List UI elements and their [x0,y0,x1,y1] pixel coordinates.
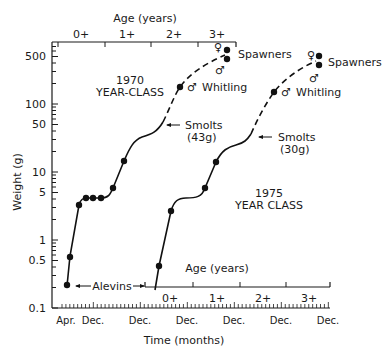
x-tick-dec-6: Dec. [317,315,340,326]
series-1975 [155,61,316,290]
top-age-0: 0+ [73,28,89,41]
whitling-1975-label: Whitling [296,86,341,99]
class-1970-label: YEAR-CLASS [95,86,164,99]
top-age-1: 1+ [119,28,135,41]
male-symbol-icon: ♂ [215,64,225,77]
top-axis-ticks [58,42,198,47]
y-tick-0-1: 0.1 [29,302,47,315]
y-tick-labels: 500 100 50 10 5 1 0.5 0.1 [25,50,46,315]
inner-axis-ticks [193,282,286,287]
class-1975-label: YEAR CLASS [234,199,303,212]
y-axis-title: Weight (g) [11,153,24,210]
alevins-label: Alevins [92,280,132,293]
top-age-2: 2+ [166,28,182,41]
male-symbol-icon: ♂ [187,81,197,94]
x-tick-dec-2: Dec. [129,315,152,326]
y-tick-100: 100 [25,98,46,111]
x-tick-labels: Apr. Dec. Dec. Dec. Dec. Dec. Dec. [56,315,339,326]
top-age-labels: 0+ 1+ 2+ 3+ [73,28,225,41]
x-ticks [62,302,328,308]
smolts-1970-annotation: Smolts (43g) [166,119,223,144]
inner-axis-title: Age (years) [185,262,249,275]
inner-age-2: 2+ [255,292,271,305]
x-tick-dec-1: Dec. [82,315,105,326]
x-axis-title: Time (months) [143,334,224,347]
y-tick-1: 1 [39,234,46,247]
top-age-3: 3+ [209,28,225,41]
female-symbol-icon: ♀ [214,41,222,54]
alevins-annotation: Alevins [75,280,145,293]
growth-chart: 500 100 50 10 5 1 0.5 0.1 Apr. Dec. Dec.… [0,0,383,355]
male-symbol-icon: ♂ [281,86,291,99]
whitling-1970-label: Whitling [202,81,247,94]
smolts-1970-weight: (43g) [187,131,217,144]
female-symbol-icon: ♀ [307,49,315,62]
inner-age-1: 1+ [209,292,225,305]
y-tick-500: 500 [25,50,46,63]
y-tick-5: 5 [39,186,46,199]
smolts-1975-annotation: Smolts (30g) [258,131,316,156]
whitling-1970: ♂ Whitling [187,81,247,94]
x-tick-dec-5: Dec. [270,315,293,326]
inner-age-labels: 0+ 1+ 2+ 3+ [162,292,317,305]
x-tick-dec-3: Dec. [176,315,199,326]
top-axis-title: Age (years) [113,12,177,25]
y-tick-10: 10 [32,166,46,179]
spawners-1970-label: Spawners [238,48,292,61]
inner-age-3: 3+ [301,292,317,305]
y-tick-50: 50 [32,118,46,131]
spawners-1975-label: Spawners [328,56,382,69]
inner-age-0: 0+ [162,292,178,305]
y-tick-0-5: 0.5 [29,254,47,267]
smolts-1975-weight: (30g) [280,143,310,156]
y-ticks [52,47,58,309]
x-tick-apr: Apr. [56,315,76,326]
x-tick-dec-4: Dec. [223,315,246,326]
whitling-1975: ♂ Whitling [281,86,341,99]
male-symbol-icon: ♂ [309,72,319,85]
